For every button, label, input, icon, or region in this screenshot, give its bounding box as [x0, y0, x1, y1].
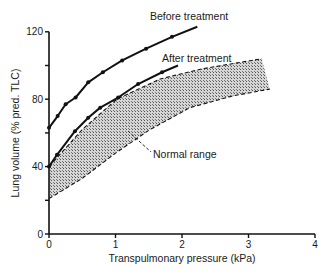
data-point-marker	[86, 80, 90, 84]
data-point-marker	[170, 35, 174, 39]
x-tick-label: 0	[46, 239, 52, 250]
normal-range-fill	[49, 59, 270, 199]
data-point-marker	[74, 96, 78, 100]
data-point-marker	[56, 114, 60, 118]
label-after-treatment: After treatment	[162, 52, 232, 64]
data-point-marker	[47, 126, 51, 130]
x-tick-label: 1	[113, 239, 119, 250]
lung-compliance-chart: 0123404080120 Before treatment After tre…	[0, 0, 326, 276]
y-tick-label: 80	[32, 94, 44, 105]
y-tick-label: 120	[26, 26, 43, 37]
normal-range-region	[49, 59, 270, 199]
x-tick-label: 3	[246, 239, 252, 250]
chart-svg: 0123404080120 Before treatment After tre…	[0, 0, 326, 276]
data-point-marker	[73, 129, 77, 133]
label-normal-range: Normal range	[153, 148, 217, 160]
data-point-marker	[144, 47, 148, 51]
data-point-marker	[64, 102, 68, 106]
y-tick-label: 0	[37, 229, 43, 240]
data-point-marker	[136, 82, 140, 86]
x-tick-label: 4	[312, 239, 318, 250]
data-point-marker	[98, 106, 102, 110]
data-point-marker	[101, 70, 105, 74]
x-tick-label: 2	[179, 239, 185, 250]
x-axis-label: Transpulmonary pressure (kPa)	[108, 252, 255, 264]
label-before-treatment: Before treatment	[150, 10, 228, 22]
data-point-marker	[86, 116, 90, 120]
y-tick-label: 40	[32, 161, 44, 172]
data-point-marker	[120, 58, 124, 62]
data-point-marker	[160, 70, 164, 74]
y-axis-label: Lung volume (% pred. TLC)	[9, 69, 21, 198]
